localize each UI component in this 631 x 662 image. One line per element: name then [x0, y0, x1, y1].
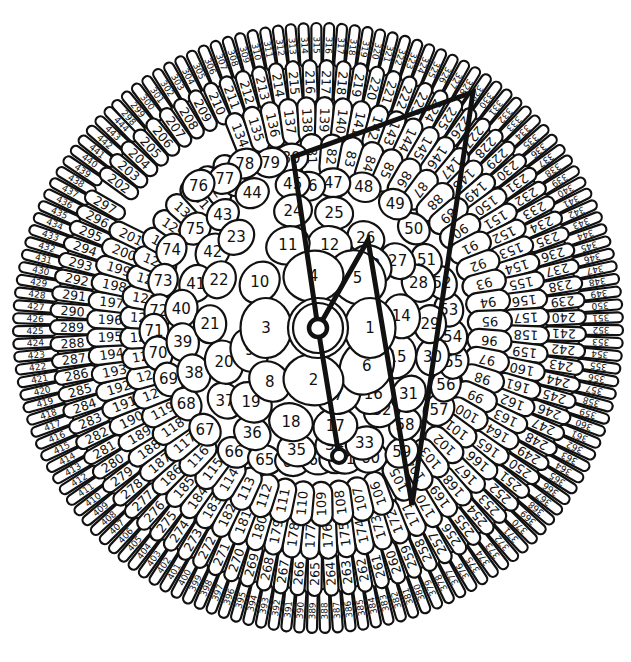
petal-number: 76	[189, 177, 208, 195]
petal-number: 70	[148, 344, 167, 362]
petal-number: 157	[513, 310, 539, 326]
petal-number: 33	[355, 434, 374, 452]
petal-number: 288	[60, 335, 85, 351]
start-circle-icon	[309, 319, 327, 337]
petal-number: 49	[386, 195, 405, 213]
petal-number: 2	[309, 371, 319, 389]
petal-number: 425	[26, 326, 43, 336]
petal-number: 290	[60, 303, 85, 320]
petal-number: 31	[399, 385, 418, 403]
petal-number: 22	[210, 271, 229, 289]
petal-number: 6	[362, 357, 372, 375]
petal-number: 428	[28, 289, 47, 301]
petal-number: 18	[281, 413, 300, 431]
petal-number: 239	[550, 293, 576, 310]
petal-spiral-canvas: 2982993003013023033043053063073083093103…	[0, 0, 631, 662]
petal-number: 96	[481, 333, 499, 349]
petal-21: 21	[193, 305, 227, 344]
end-circle-icon	[332, 449, 346, 463]
petal-number: 95	[481, 314, 498, 330]
petal-number: 313	[286, 37, 298, 55]
petal-number: 264	[323, 561, 339, 586]
petal-number: 50	[404, 220, 423, 238]
petal-number: 263	[338, 560, 356, 586]
petal-number: 139	[316, 107, 332, 132]
petal-number: 25	[325, 204, 344, 222]
petal-number: 350	[591, 300, 609, 311]
petal-number: 39	[173, 333, 192, 351]
petal-3: 3	[241, 298, 292, 358]
petal-number: 265	[307, 562, 322, 586]
petal-number: 74	[162, 241, 181, 259]
petal-number: 287	[61, 350, 87, 368]
petal-number: 3	[261, 319, 271, 337]
petal-number: 109	[314, 491, 329, 516]
petal-number: 44	[243, 184, 262, 202]
petal-number: 138	[299, 107, 315, 133]
petal-number: 158	[513, 327, 538, 343]
petal-number: 318	[347, 38, 359, 57]
petal-number: 28	[409, 274, 428, 292]
petal-number: 177	[302, 523, 318, 548]
petal-number: 391	[282, 600, 294, 618]
petal-number: 424	[27, 338, 45, 349]
petal-number: 315	[311, 36, 321, 53]
petal-number: 48	[354, 178, 373, 196]
petal-number: 57	[429, 401, 448, 419]
petal-number: 388	[319, 602, 329, 620]
petal-number: 1	[365, 319, 375, 337]
petal-number: 354	[590, 348, 608, 360]
petal-number: 314	[299, 37, 310, 55]
petal-number: 43	[213, 206, 232, 224]
petal-number: 353	[592, 337, 610, 348]
petal-number: 79	[261, 154, 280, 172]
petal-number: 351	[592, 313, 610, 324]
petal-number: 94	[479, 294, 498, 311]
petal-number: 216	[302, 70, 318, 95]
petal-number: 68	[177, 395, 196, 413]
petal-number: 108	[332, 489, 350, 516]
petal-number: 386	[343, 600, 355, 618]
petal-number: 289	[60, 320, 84, 335]
petal-number: 316	[323, 36, 334, 54]
petal-number: 5	[353, 269, 363, 287]
petal-number: 423	[27, 349, 45, 361]
petal-number: 21	[201, 315, 220, 333]
petal-number: 196	[97, 312, 122, 328]
petal-number: 242	[550, 341, 575, 358]
petal-number: 73	[154, 272, 173, 290]
petal-number: 387	[331, 601, 342, 619]
petal-number: 11	[278, 236, 297, 254]
petal-number: 8	[265, 373, 275, 391]
petal-number: 69	[159, 370, 178, 388]
petal-number: 426	[26, 314, 44, 325]
petal-number: 38	[184, 364, 203, 382]
dot-to-dot-diagram: 2982993003013023033043053063073083093103…	[0, 0, 631, 662]
petal-number: 266	[290, 561, 307, 586]
petal-number: 36	[243, 424, 262, 442]
petal-number: 195	[97, 329, 122, 345]
petal-number: 215	[286, 70, 303, 95]
petal-number: 75	[186, 220, 205, 238]
petal-number: 47	[324, 174, 343, 192]
petal-number: 194	[98, 345, 125, 363]
petal-number: 240	[551, 310, 576, 326]
petal-number: 82	[323, 148, 339, 166]
petal-number: 67	[195, 421, 214, 439]
petal-number: 317	[335, 37, 346, 55]
petal-number: 23	[227, 228, 246, 246]
petal-number: 349	[590, 288, 609, 300]
petal-number: 389	[307, 602, 317, 620]
petal-number: 427	[27, 301, 45, 312]
petal-number: 218	[333, 70, 350, 95]
petal-number: 65	[255, 451, 274, 469]
petal-number: 241	[552, 326, 576, 342]
petal-number: 40	[172, 300, 191, 318]
petal-number: 217	[318, 70, 334, 95]
petal-number: 35	[287, 441, 306, 459]
petal-number: 77	[215, 170, 234, 188]
petal-number: 352	[592, 325, 609, 335]
petal-number: 10	[250, 273, 269, 291]
petal-number: 390	[295, 601, 306, 619]
